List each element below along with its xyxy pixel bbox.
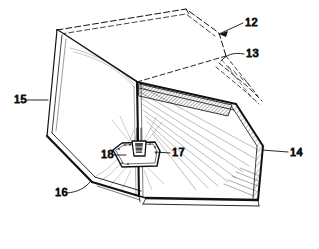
callout-13-label: 13	[246, 47, 259, 59]
callout-12-label: 12	[245, 16, 258, 28]
left-side-panel	[47, 30, 139, 196]
right-upper-flap-edge	[216, 56, 262, 104]
callout-15-label: 15	[14, 93, 27, 105]
callout-16: 16	[55, 182, 90, 198]
callout-14-label: 14	[290, 146, 303, 158]
callout-15: 15	[14, 93, 48, 105]
container-drawing: 12 13 14 15 16	[14, 9, 303, 206]
patent-figure: 12 13 14 15 16	[0, 0, 319, 249]
callout-13: 13	[221, 47, 259, 61]
patent-drawing-canvas: 12 13 14 15 16	[0, 0, 319, 249]
callout-12: 12	[219, 16, 258, 37]
callout-17-label: 17	[172, 146, 185, 158]
callout-16-label: 16	[55, 186, 68, 198]
callout-18-label: 18	[101, 148, 114, 160]
callout-14: 14	[262, 146, 303, 158]
